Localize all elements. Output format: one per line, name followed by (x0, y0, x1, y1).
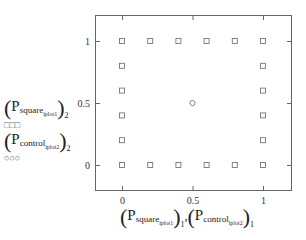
data-points (120, 39, 266, 168)
legend-index: 2 (65, 111, 69, 120)
legend-sub: square (20, 105, 44, 115)
square-marker (148, 39, 153, 44)
square-marker (232, 163, 237, 168)
square-marker (204, 163, 209, 168)
square-marker (261, 88, 266, 93)
xlabel-index: 1 (181, 220, 185, 229)
xlabel-symbol: P (195, 207, 203, 223)
xlabel-sub: control (203, 214, 229, 224)
square-marker (120, 88, 125, 93)
legend-subsub: iplot1 (43, 111, 57, 117)
square-marker (148, 163, 153, 168)
axis-tick-labels: 00.5100.51 (78, 36, 267, 206)
legend-symbol: P (11, 131, 19, 147)
circle-marker-icon: ○○○ (4, 152, 71, 164)
square-marker (261, 113, 266, 118)
square-marker (261, 163, 266, 168)
x-tick-label: 1 (261, 195, 266, 206)
square-marker (120, 39, 125, 44)
y-tick-label: 0.5 (78, 98, 91, 109)
circle-marker (190, 100, 195, 105)
xlabel-subsub: iplot2 (229, 220, 243, 226)
xlabel-symbol: P (127, 207, 135, 223)
square-marker (120, 63, 125, 68)
square-marker (176, 163, 181, 168)
xlabel-index: 1 (250, 220, 254, 229)
legend-item-square: (Psquareiplot1)2 □□□ (4, 100, 69, 131)
axis-ticks (96, 16, 291, 190)
legend-sub: control (20, 138, 46, 148)
legend-symbol: P (11, 98, 19, 114)
legend-subsub: iplot2 (45, 144, 59, 150)
square-marker (120, 113, 125, 118)
square-marker (120, 138, 125, 143)
square-marker (261, 63, 266, 68)
square-marker (120, 163, 125, 168)
square-marker (204, 39, 209, 44)
legend-item-control: (Pcontroliplot2)2 ○○○ (4, 133, 71, 164)
xlabel-subsub: iplot1 (159, 220, 173, 226)
square-marker (176, 39, 181, 44)
legend-index: 2 (67, 144, 71, 153)
square-marker (261, 138, 266, 143)
square-marker (261, 39, 266, 44)
xlabel-sub: square (136, 214, 160, 224)
y-tick-label: 0 (85, 160, 90, 171)
square-marker (232, 39, 237, 44)
x-axis-label: (Psquareiplot1)1,(Pcontroliplot2)1 (120, 204, 254, 230)
y-tick-label: 1 (85, 36, 90, 47)
